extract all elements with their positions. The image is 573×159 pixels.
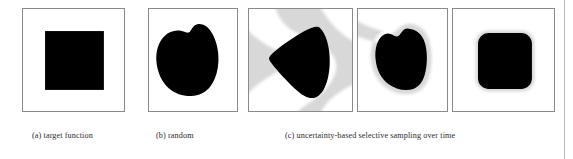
panel-uncertainty-step-3-canvas	[453, 9, 554, 111]
panel-uncertainty-step-1-canvas	[249, 9, 352, 111]
caption-target-function: (a) target function	[32, 130, 93, 141]
panel-target-function-canvas	[23, 9, 124, 111]
caption-uncertainty-sampling: (c) uncertainty-based selective sampling…	[285, 130, 455, 141]
panel-uncertainty-step-2-canvas	[358, 9, 447, 111]
panel-uncertainty-step-3	[452, 8, 555, 112]
page-edge-rule	[564, 0, 565, 159]
panel-random	[148, 8, 238, 112]
figure-root: (a) target function (b) random (c) uncer…	[0, 0, 573, 159]
caption-random: (b) random	[156, 130, 194, 141]
panel-random-canvas	[149, 9, 237, 111]
panel-uncertainty-step-2	[357, 8, 448, 112]
learned-shape	[478, 33, 532, 89]
panel-target-function	[22, 8, 125, 112]
panel-uncertainty-step-1	[248, 8, 353, 112]
target-square-shape	[45, 31, 104, 90]
